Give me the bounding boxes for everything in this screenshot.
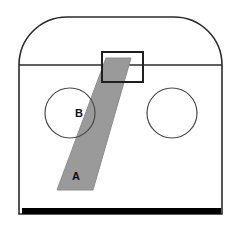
container-outline xyxy=(19,17,222,214)
floor-bar xyxy=(22,208,221,214)
band-label-a: A xyxy=(72,170,80,182)
diagram-stage: A B xyxy=(0,0,241,232)
schematic-diagram: A B xyxy=(0,0,241,232)
band-label-b: B xyxy=(75,107,83,119)
